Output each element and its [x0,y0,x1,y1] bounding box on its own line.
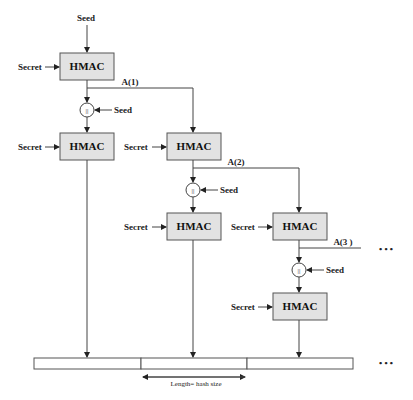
hmac-label: HMAC [283,300,318,312]
concat-symbol: || [86,107,89,115]
a1-label: A(1) [122,77,139,87]
concat-symbol: || [298,267,301,275]
secret-label: Secret [124,142,148,152]
secret-label: Secret [18,62,42,72]
hmac-label: HMAC [70,140,105,152]
secret-label: Secret [231,222,255,232]
hmac-prf-diagram: Seed HMAC Secret A(1) || Seed HMAC Secre… [0,0,413,400]
continuation-ellipsis: • • • [379,244,393,254]
seed-label: Seed [326,265,344,275]
secret-label: Secret [18,142,42,152]
seed-label: Seed [114,105,132,115]
hmac-label: HMAC [283,220,318,232]
a2-label: A(2) [228,157,245,167]
secret-label: Secret [124,222,148,232]
concat-circle-1: || [80,103,94,117]
hmac-label: HMAC [177,140,212,152]
seed-label: Seed [77,13,95,23]
hmac-box-out3: HMAC [273,293,327,320]
hmac-box-a3: HMAC [273,213,327,240]
hmac-label: HMAC [70,60,105,72]
concat-circle-3: || [292,263,306,277]
length-label: Length= hash size [171,380,222,388]
hmac-box-a1: HMAC [60,53,114,80]
a3-label: A(3 ) [333,237,352,247]
hmac-box-out1: HMAC [60,133,114,160]
output-segment-1 [34,358,141,369]
seed-label: Seed [220,185,238,195]
output-segment-3 [247,358,353,369]
concat-circle-2: || [186,183,200,197]
output-bar [34,358,353,369]
output-segment-2 [141,358,247,369]
output-ellipsis: • • • [379,358,393,368]
secret-label: Secret [231,302,255,312]
hmac-box-out2: HMAC [167,213,221,240]
hmac-box-a2: HMAC [167,133,221,160]
concat-symbol: || [192,187,195,195]
hmac-label: HMAC [177,220,212,232]
